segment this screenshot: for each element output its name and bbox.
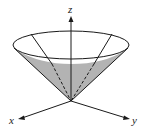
y-axis-label: y <box>131 114 137 126</box>
y-axis <box>71 101 126 118</box>
x-axis-arrowhead <box>18 116 25 121</box>
y-axis-arrowhead <box>123 116 130 121</box>
z-axis-label: z <box>67 3 73 15</box>
z-axis-arrowhead <box>69 16 74 22</box>
x-axis-label: x <box>8 114 14 126</box>
x-axis <box>22 101 71 118</box>
cone-diagram: z x y <box>0 0 142 133</box>
